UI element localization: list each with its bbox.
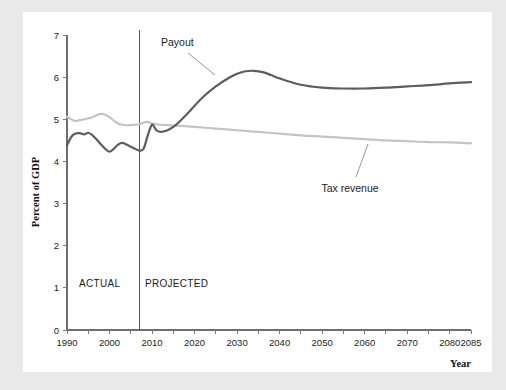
y-tick-label: 0 <box>54 325 59 336</box>
x-tick-label: 2060 <box>354 337 375 348</box>
x-tick-label: 1990 <box>56 337 77 348</box>
x-tick-label: 2070 <box>397 337 418 348</box>
x-tick-label: 2080 <box>439 337 460 348</box>
projected-region-label: PROJECTED <box>145 278 208 289</box>
payout-series-label: Payout <box>161 36 194 48</box>
y-tick-label: 2 <box>54 240 59 251</box>
x-tick-label: 2010 <box>141 337 162 348</box>
y-tick-label: 5 <box>54 114 59 125</box>
x-tick-label: 2020 <box>184 337 205 348</box>
y-tick-label: 4 <box>54 156 59 167</box>
y-tick-label: 6 <box>54 72 59 83</box>
x-tick-label: 2040 <box>269 337 290 348</box>
x-tick-label: 2030 <box>227 337 248 348</box>
y-tick-label: 7 <box>54 30 59 41</box>
y-axis-title: Percent of GDP <box>30 156 41 227</box>
x-tick-label: 2085 <box>460 337 481 348</box>
y-tick-label: 1 <box>54 282 59 293</box>
chart-figure: Percent of GDP 01234567 1990200020102020… <box>23 12 492 372</box>
x-axis-title: Year <box>450 358 471 369</box>
page-root: Percent of GDP 01234567 1990200020102020… <box>0 0 506 390</box>
actual-region-label: ACTUAL <box>79 278 120 289</box>
plot-background <box>23 12 492 372</box>
chart-card: Percent of GDP 01234567 1990200020102020… <box>23 12 492 372</box>
x-tick-label: 2050 <box>312 337 333 348</box>
y-tick-label: 3 <box>54 198 59 209</box>
x-tick-label: 2000 <box>99 337 120 348</box>
tax-revenue-series-label: Tax revenue <box>321 182 378 194</box>
